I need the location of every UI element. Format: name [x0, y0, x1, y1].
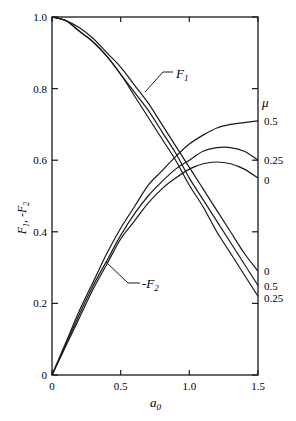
x-tick-label: 0: [49, 380, 55, 392]
mu-label-f2: 0: [264, 174, 270, 186]
f2-label: -F2: [142, 276, 159, 293]
y-tick-label: 0.6: [33, 154, 47, 166]
curve-F1-mu-0: [52, 17, 258, 271]
curve-F1-mu-0.5: [52, 17, 258, 286]
x-tick-label: 1.5: [251, 380, 265, 392]
chart: 00.51.01.500.20.40.60.81.0 0.50.25000.50…: [0, 0, 296, 421]
curve-negF2-mu-0: [52, 162, 258, 375]
y-tick-label: 0.2: [33, 297, 47, 309]
mu-label-f2: 0.25: [264, 154, 284, 166]
mu-legend-title: μ: [261, 95, 269, 110]
curves: [52, 17, 258, 375]
y-axis-label: F1, -F2: [15, 202, 31, 236]
mu-label-f2: 0.5: [264, 115, 278, 127]
svg-text:F1, -F2: F1, -F2: [15, 202, 31, 236]
f2-annotation: -F2: [106, 262, 159, 293]
right-mu-labels: 0.50.25000.50.25: [264, 115, 284, 304]
f1-annotation: F1: [145, 66, 188, 92]
f1-label: F1: [175, 66, 188, 83]
y-tick-label: 0.8: [33, 83, 47, 95]
mu-label-f1: 0.5: [264, 280, 278, 292]
y-tick-label: 0: [42, 369, 48, 381]
x-axis-label: a0: [150, 395, 162, 412]
y-tick-label: 0.4: [33, 226, 47, 238]
mu-label-f1: 0.25: [264, 292, 284, 304]
mu-label-f1: 0: [264, 265, 270, 277]
curve-negF2-mu-0.25: [52, 147, 258, 375]
x-tick-label: 1.0: [182, 380, 196, 392]
y-tick-label: 1.0: [33, 11, 47, 23]
x-tick-label: 0.5: [114, 380, 128, 392]
curve-F1-mu-0.25: [52, 17, 258, 296]
